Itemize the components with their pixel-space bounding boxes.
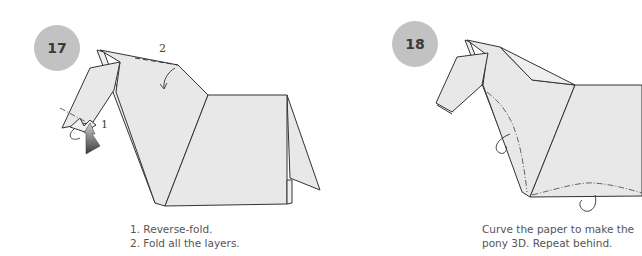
step-18-pony-figure	[436, 40, 642, 211]
origami-diagrams: 1 2	[0, 0, 642, 256]
head-panel	[62, 62, 120, 128]
fold-label-1: 1	[101, 118, 108, 131]
instruction-line: Curve the paper to make the	[482, 222, 634, 236]
curl-arrow-icon	[580, 195, 596, 211]
instruction-line: 1. Reverse-fold.	[130, 222, 240, 236]
step-17-pony-figure: 1 2	[60, 42, 320, 206]
reverse-fold-arrow-icon	[70, 129, 80, 139]
step-18-instructions: Curve the paper to make the pony 3D. Rep…	[482, 222, 634, 250]
instruction-line: pony 3D. Repeat behind.	[482, 236, 634, 250]
instruction-line: 2. Fold all the layers.	[130, 236, 240, 250]
hind-leg-flap	[287, 95, 320, 190]
step-17-instructions: 1. Reverse-fold. 2. Fold all the layers.	[130, 222, 240, 250]
fold-label-2: 2	[159, 42, 166, 55]
head-panel	[436, 53, 488, 112]
body-edge-layer	[287, 180, 292, 204]
